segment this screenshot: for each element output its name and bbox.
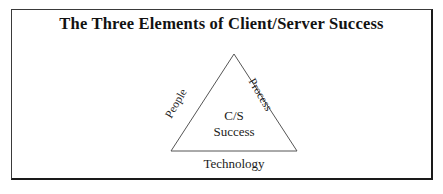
triangle-label-technology: Technology xyxy=(167,156,301,172)
triangle-center-line-2: Success xyxy=(167,124,301,140)
figure-root: The Three Elements of Client/Server Succ… xyxy=(0,0,443,194)
figure-frame: The Three Elements of Client/Server Succ… xyxy=(11,9,433,180)
triangle-center-line-1: C/S xyxy=(167,108,301,124)
triangle-center-text: C/S Success xyxy=(167,108,301,140)
figure-title: The Three Elements of Client/Server Succ… xyxy=(12,14,431,34)
triangle-diagram: People Process C/S Success Technology xyxy=(167,50,301,175)
